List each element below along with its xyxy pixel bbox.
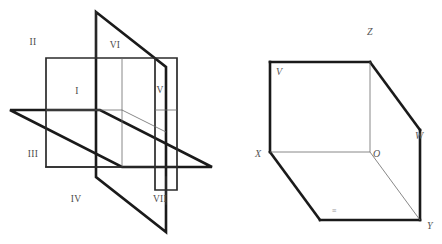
octant-label-VI: VI <box>110 40 121 50</box>
trihedron-frontal-face <box>270 62 370 152</box>
octant-label-IV: IV <box>71 194 82 204</box>
octant-label-III: III <box>28 149 38 159</box>
vertex-label-O: O <box>373 148 380 159</box>
figure-root: II VI I V III IV VII <box>0 0 442 244</box>
left-diagram-group: II VI I V III IV VII <box>10 12 212 232</box>
octant-label-VII: VII <box>153 194 167 204</box>
vertex-label-Z: Z <box>367 26 373 37</box>
vertex-label-Y: Y <box>427 220 434 231</box>
geometry-diagram: II VI I V III IV VII <box>0 0 442 244</box>
octant-label-V: V <box>156 85 163 95</box>
right-diagram-group: V Z W X O Y ≡ <box>254 26 434 231</box>
vertex-label-X: X <box>254 148 262 159</box>
octant-label-II: II <box>30 37 37 47</box>
faint-tick-mark: ≡ <box>332 206 337 215</box>
vertex-label-W: W <box>415 130 425 141</box>
octant-label-I: I <box>75 86 78 96</box>
